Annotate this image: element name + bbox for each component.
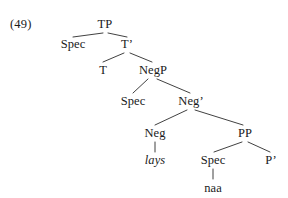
tree-branch-negbar-to-pp [195,110,243,125]
tree-node-tbar: T’ [121,38,133,51]
example-number-label: (49) [10,17,32,32]
tree-node-naa: naa [204,182,222,195]
tree-node-spec2: Spec [121,95,146,108]
tree-node-tp: TP [98,18,113,31]
syntax-tree-figure: (49) TPSpecT’TNegPSpecNeg’NegPPlaysSpecP… [0,0,288,198]
tree-branch-pp-to-pbar [248,142,270,152]
tree-branch-negp-to-negbar [157,79,190,93]
tree-node-neg: Neg [144,127,165,140]
tree-node-spec3: Spec [201,154,226,167]
tree-branch-tbar-to-negp [130,53,152,62]
tree-node-spec1: Spec [61,38,86,51]
tree-branch-negbar-to-neg [155,110,187,125]
tree-branch-tbar-to-t [103,53,124,62]
tree-node-negp: NegP [139,64,167,77]
tree-branch-negp-to-spec2 [133,79,148,93]
tree-node-pbar: P’ [265,154,276,167]
tree-node-lays: lays [145,154,166,167]
tree-node-pp: PP [238,127,252,140]
tree-branch-pp-to-spec3 [214,142,242,152]
tree-node-t: T [99,64,107,77]
tree-node-negbar: Neg’ [178,95,203,108]
